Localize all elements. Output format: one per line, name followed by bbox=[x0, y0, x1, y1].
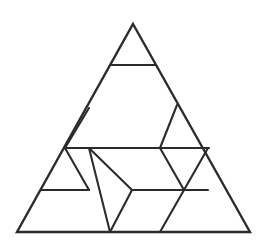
figure-background bbox=[0, 0, 270, 243]
triangle-figure bbox=[0, 0, 270, 243]
